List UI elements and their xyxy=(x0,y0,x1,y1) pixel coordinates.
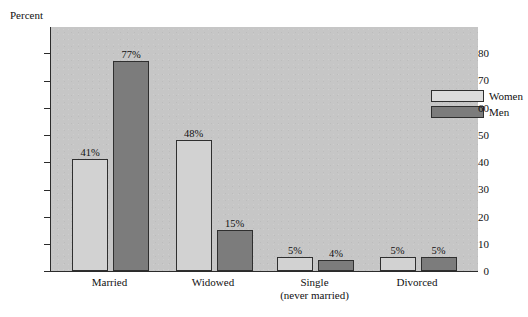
y-axis-tick xyxy=(44,135,51,136)
x-axis-label-married: Married xyxy=(50,276,170,289)
bar-women-divorced: 5% xyxy=(380,257,416,271)
y-axis-tick-label: 80 xyxy=(457,48,499,59)
x-axis-label-line2: (never married) xyxy=(255,289,375,302)
x-axis-label-line1: Married xyxy=(92,276,127,288)
bar-women-single: 5% xyxy=(277,257,313,271)
y-axis-tick-label: 70 xyxy=(457,75,499,86)
y-axis-tick-label: 40 xyxy=(457,157,499,168)
y-axis-tick xyxy=(44,81,51,82)
bar-women-widowed: 48% xyxy=(176,140,212,271)
bar-value-label: 77% xyxy=(121,49,140,60)
y-axis-tick-label: 30 xyxy=(457,184,499,195)
y-axis-title: Percent xyxy=(10,9,43,22)
y-axis-tick-label: 0 xyxy=(457,266,499,277)
x-axis-label-line1: Single xyxy=(300,276,328,288)
bar-men-widowed: 15% xyxy=(217,230,253,271)
y-axis-tick xyxy=(44,244,51,245)
women-swatch xyxy=(431,90,484,102)
x-axis-label-line1: Widowed xyxy=(192,276,234,288)
bar-value-label: 41% xyxy=(80,147,99,158)
y-axis-tick xyxy=(44,108,51,109)
y-axis-tick xyxy=(44,217,51,218)
bar-value-label: 5% xyxy=(391,245,405,256)
y-axis-tick-label: 60 xyxy=(457,103,499,114)
bar-women-married: 41% xyxy=(72,159,108,271)
y-axis-tick xyxy=(44,162,51,163)
y-axis-tick-label: 50 xyxy=(457,130,499,141)
bar-men-single: 4% xyxy=(318,260,354,271)
y-axis-tick-label: 10 xyxy=(457,239,499,250)
y-axis-tick xyxy=(44,53,51,54)
y-axis-tick xyxy=(44,271,51,272)
y-axis-tick xyxy=(44,190,51,191)
bar-value-label: 15% xyxy=(225,218,244,229)
x-axis-label-divorced: Divorced xyxy=(357,276,477,289)
plot-area: 41%77%48%15%5%4%5%5% WomenMen xyxy=(50,27,478,272)
bar-value-label: 48% xyxy=(184,128,203,139)
bar-value-label: 5% xyxy=(288,245,302,256)
bar-men-divorced: 5% xyxy=(421,257,457,271)
x-axis-label-line1: Divorced xyxy=(397,276,438,288)
y-axis-tick-label: 20 xyxy=(457,212,499,223)
bar-value-label: 4% xyxy=(329,248,343,259)
bar-value-label: 5% xyxy=(432,245,446,256)
legend-label: Women xyxy=(489,89,523,103)
bar-men-married: 77% xyxy=(113,61,149,271)
